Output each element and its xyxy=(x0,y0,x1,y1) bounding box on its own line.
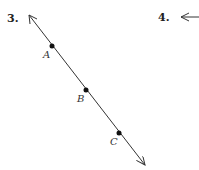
point-A xyxy=(50,44,55,49)
label-B: B xyxy=(77,93,84,104)
problem-4-number: 4. xyxy=(158,11,169,24)
line-diagram-svg xyxy=(0,0,199,170)
point-C xyxy=(117,131,122,136)
problem-3-number: 3. xyxy=(7,12,18,25)
diagram-canvas: 3. 4. A B C xyxy=(0,0,199,170)
label-C: C xyxy=(110,136,118,147)
label-A: A xyxy=(43,49,50,60)
point-B xyxy=(84,88,89,93)
